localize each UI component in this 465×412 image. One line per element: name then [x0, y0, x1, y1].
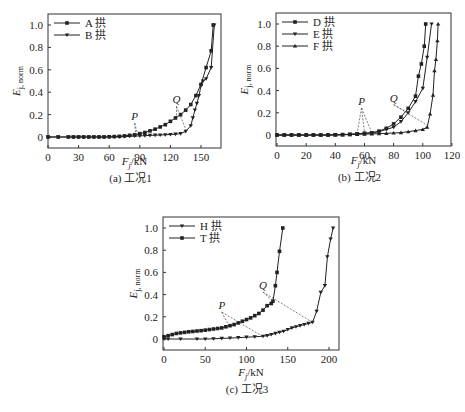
x-tick-label: 0	[161, 353, 167, 365]
legend-entry: D 拱	[282, 15, 335, 28]
square-marker	[174, 116, 178, 120]
annotation-label: Q	[173, 93, 181, 105]
y-tick-label: 0.4	[29, 86, 43, 98]
square-marker	[249, 316, 253, 320]
triangle-down-marker	[209, 66, 213, 70]
square-marker	[293, 20, 297, 24]
annotation-label: Q	[390, 92, 398, 104]
x-tick-label: 100	[238, 353, 255, 365]
y-tick-label: 1.0	[144, 222, 158, 234]
panel-caption: (c) 工况3	[226, 383, 269, 396]
chart-panel-b: 02040608010012000.20.40.60.81.0Ej, normF…	[238, 13, 461, 184]
series-e	[275, 22, 434, 137]
x-tick-label: 80	[388, 149, 400, 161]
triangle-up-marker	[432, 69, 436, 73]
square-marker	[166, 334, 170, 338]
legend-label: F 拱	[313, 39, 333, 52]
square-marker	[224, 325, 228, 329]
square-marker	[245, 318, 249, 322]
y-tick-label: 1.0	[257, 18, 271, 30]
x-tick-label: 120	[162, 151, 179, 163]
square-marker	[184, 108, 188, 112]
x-axis-label: Fj/kN	[237, 366, 264, 381]
square-marker	[417, 74, 421, 78]
square-marker	[143, 131, 147, 135]
square-marker	[257, 312, 261, 316]
square-marker	[162, 335, 166, 339]
x-axis-label: Fj/kN	[121, 155, 148, 170]
square-marker	[195, 329, 199, 333]
x-tick-label: 200	[321, 353, 338, 365]
square-marker	[274, 284, 278, 288]
square-marker	[253, 314, 257, 318]
x-tick-label: 20	[301, 149, 313, 161]
annotation-leader	[263, 292, 273, 301]
annotation-label: Q	[259, 279, 267, 291]
triangle-down-marker	[319, 291, 323, 295]
legend-entry: F 拱	[282, 39, 333, 52]
triangle-up-marker	[436, 22, 440, 26]
legend-label: H 拱	[200, 219, 222, 232]
legend-entry: T 拱	[169, 231, 220, 244]
triangle-down-marker	[325, 255, 329, 259]
triangle-down-marker	[323, 284, 327, 288]
square-marker	[420, 62, 424, 66]
x-tick-label: 50	[200, 353, 212, 365]
x-tick-label: 40	[330, 149, 342, 161]
triangle-down-marker	[193, 109, 197, 113]
y-tick-label: 0.4	[257, 85, 271, 97]
y-tick-label: 0	[153, 333, 159, 345]
legend-label: E 拱	[313, 27, 333, 40]
square-marker	[175, 332, 179, 336]
chart-panel-a: 030609012015000.20.40.60.81.0Ej, normFj/…	[10, 14, 221, 185]
y-tick-label: 0.2	[257, 107, 271, 119]
y-tick-label: 1.0	[29, 19, 43, 31]
annotation-label: P	[217, 299, 225, 311]
square-marker	[183, 331, 187, 335]
legend-entry: A 拱	[54, 16, 106, 29]
y-tick-label: 0	[266, 129, 272, 141]
figure: 030609012015000.20.40.60.81.0Ej, normFj/…	[0, 0, 465, 412]
square-marker	[148, 129, 152, 133]
legend-entry: B 拱	[54, 28, 106, 41]
legend-label: D 拱	[313, 15, 335, 28]
series-h	[162, 226, 336, 341]
y-tick-label: 0.6	[257, 62, 271, 74]
triangle-up-marker	[434, 58, 438, 62]
square-marker	[187, 330, 191, 334]
square-marker	[424, 22, 428, 26]
series-line	[277, 24, 432, 135]
y-axis-label: Ej, norm	[238, 64, 253, 96]
triangle-down-marker	[429, 22, 433, 26]
square-marker	[212, 327, 216, 331]
annotation-leader	[263, 292, 313, 322]
square-marker	[153, 127, 157, 131]
x-tick-label: 60	[104, 151, 116, 163]
square-marker	[275, 271, 279, 275]
chart-panel-c: 05010015020000.20.40.60.81.0Ej, normFj/k…	[127, 217, 339, 396]
annotation-label: P	[130, 110, 138, 122]
y-tick-label: 0.2	[144, 311, 158, 323]
y-tick-label: 0	[38, 131, 44, 143]
square-marker	[265, 304, 269, 308]
square-marker	[228, 324, 232, 328]
annotation-label: P	[357, 95, 365, 107]
square-marker	[422, 44, 426, 48]
square-marker	[278, 250, 282, 254]
triangle-up-marker	[425, 125, 429, 129]
square-marker	[158, 125, 162, 129]
triangle-down-marker	[314, 310, 318, 314]
triangle-down-marker	[421, 87, 425, 91]
x-tick-label: 150	[280, 353, 297, 365]
x-tick-label: 30	[73, 151, 85, 163]
square-marker	[261, 308, 265, 312]
annotation-leader	[394, 105, 409, 113]
y-tick-label: 0.6	[144, 266, 158, 278]
square-marker	[392, 122, 396, 126]
square-marker	[220, 326, 224, 330]
series-d	[275, 22, 427, 137]
y-tick-label: 0.4	[144, 289, 158, 301]
square-marker	[169, 120, 173, 124]
square-marker	[216, 327, 220, 331]
square-marker	[406, 107, 410, 111]
